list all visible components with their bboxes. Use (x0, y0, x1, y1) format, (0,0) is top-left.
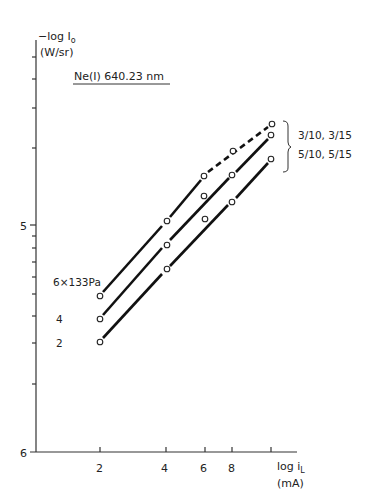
svg-text:(W/sr): (W/sr) (40, 46, 73, 59)
annotation-5-10: 5/10, 5/15 (298, 148, 352, 160)
series-label-2: 2 (56, 337, 63, 349)
data-points (97, 121, 275, 345)
series-6x133pa (103, 127, 268, 292)
x-axis-label: log iL (mA) (277, 460, 305, 490)
x-tick-label-6: 6 (200, 462, 207, 475)
series-4 (103, 139, 268, 315)
y-ticks (30, 57, 36, 384)
svg-text:log iL: log iL (277, 460, 305, 475)
svg-text:−log Io: −log Io (38, 30, 76, 45)
y-tick-label-5: 5 (20, 220, 27, 233)
annotation-3-10: 3/10, 3/15 (298, 129, 352, 141)
brace (283, 121, 291, 172)
x-tick-label-4: 4 (161, 462, 168, 475)
series-2 (103, 163, 268, 338)
chart-title: Ne(I) 640.23 nm (74, 70, 164, 83)
chart: 5 6 2 4 6 8 −log Io (W/sr) log iL (mA) N… (0, 0, 368, 504)
x-tick-label-8: 8 (228, 462, 235, 475)
series-label-6x133pa: 6×133Pa (53, 276, 101, 288)
y-axis-label: −log Io (W/sr) (38, 30, 76, 59)
svg-text:(mA): (mA) (277, 477, 304, 490)
x-ticks (100, 447, 271, 452)
y-tick-label-6: 6 (20, 447, 27, 460)
series-label-4: 4 (56, 313, 63, 325)
x-tick-label-2: 2 (96, 462, 103, 475)
